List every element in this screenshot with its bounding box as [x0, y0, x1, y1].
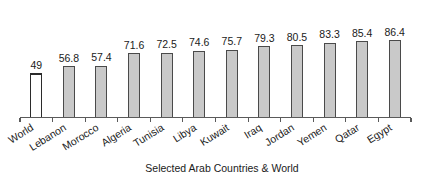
value-label-qatar: 85.4 [352, 27, 373, 39]
category-label-egypt: Egypt [365, 121, 394, 145]
bar-libya [194, 51, 205, 117]
value-label-egypt: 86.4 [384, 26, 405, 38]
value-label-lebanon: 56.8 [59, 52, 80, 64]
value-label-tunisia: 72.5 [156, 38, 177, 50]
chart-canvas: 4956.857.471.672.574.675.779.380.583.385… [0, 0, 424, 184]
category-label-tunisia: Tunisia [131, 121, 166, 149]
bar-yemen [324, 43, 335, 117]
bar-morocco [96, 66, 107, 117]
bar-jordan [291, 46, 302, 118]
value-label-libya: 74.6 [189, 36, 210, 48]
value-label-world: 49 [30, 59, 42, 71]
category-label-kuwait: Kuwait [198, 121, 231, 148]
bar-iraq [259, 47, 270, 118]
bar-chart: 4956.857.471.672.574.675.779.380.583.385… [0, 0, 424, 184]
value-label-algeria: 71.6 [124, 39, 145, 51]
category-label-morocco: Morocco [60, 121, 101, 153]
bar-egypt [389, 41, 400, 118]
x-axis-title: Selected Arab Countries & World [145, 162, 298, 174]
category-labels-group: WorldLebanonMoroccoAlgeriaTunisiaLibyaKu… [6, 121, 394, 153]
category-label-algeria: Algeria [99, 121, 133, 149]
value-labels-group: 4956.857.471.672.574.675.779.380.583.385… [30, 26, 405, 71]
bar-qatar [357, 42, 368, 118]
category-label-lebanon: Lebanon [27, 121, 68, 153]
category-label-iraq: Iraq [242, 121, 264, 141]
x-axis [20, 118, 411, 123]
category-label-libya: Libya [171, 121, 199, 145]
value-label-kuwait: 75.7 [222, 35, 243, 47]
category-label-yemen: Yemen [295, 121, 329, 148]
bar-world [31, 74, 42, 118]
bar-tunisia [161, 53, 172, 117]
value-label-iraq: 79.3 [254, 32, 275, 44]
bar-kuwait [226, 50, 237, 117]
value-label-morocco: 57.4 [91, 51, 112, 63]
value-label-jordan: 80.5 [287, 31, 308, 43]
category-label-jordan: Jordan [262, 121, 296, 148]
bars-group [31, 41, 400, 118]
value-label-yemen: 83.3 [319, 28, 340, 40]
category-label-qatar: Qatar [333, 121, 362, 145]
bar-lebanon [63, 67, 74, 118]
bar-algeria [129, 54, 140, 118]
x-axis-ticks [20, 118, 411, 123]
